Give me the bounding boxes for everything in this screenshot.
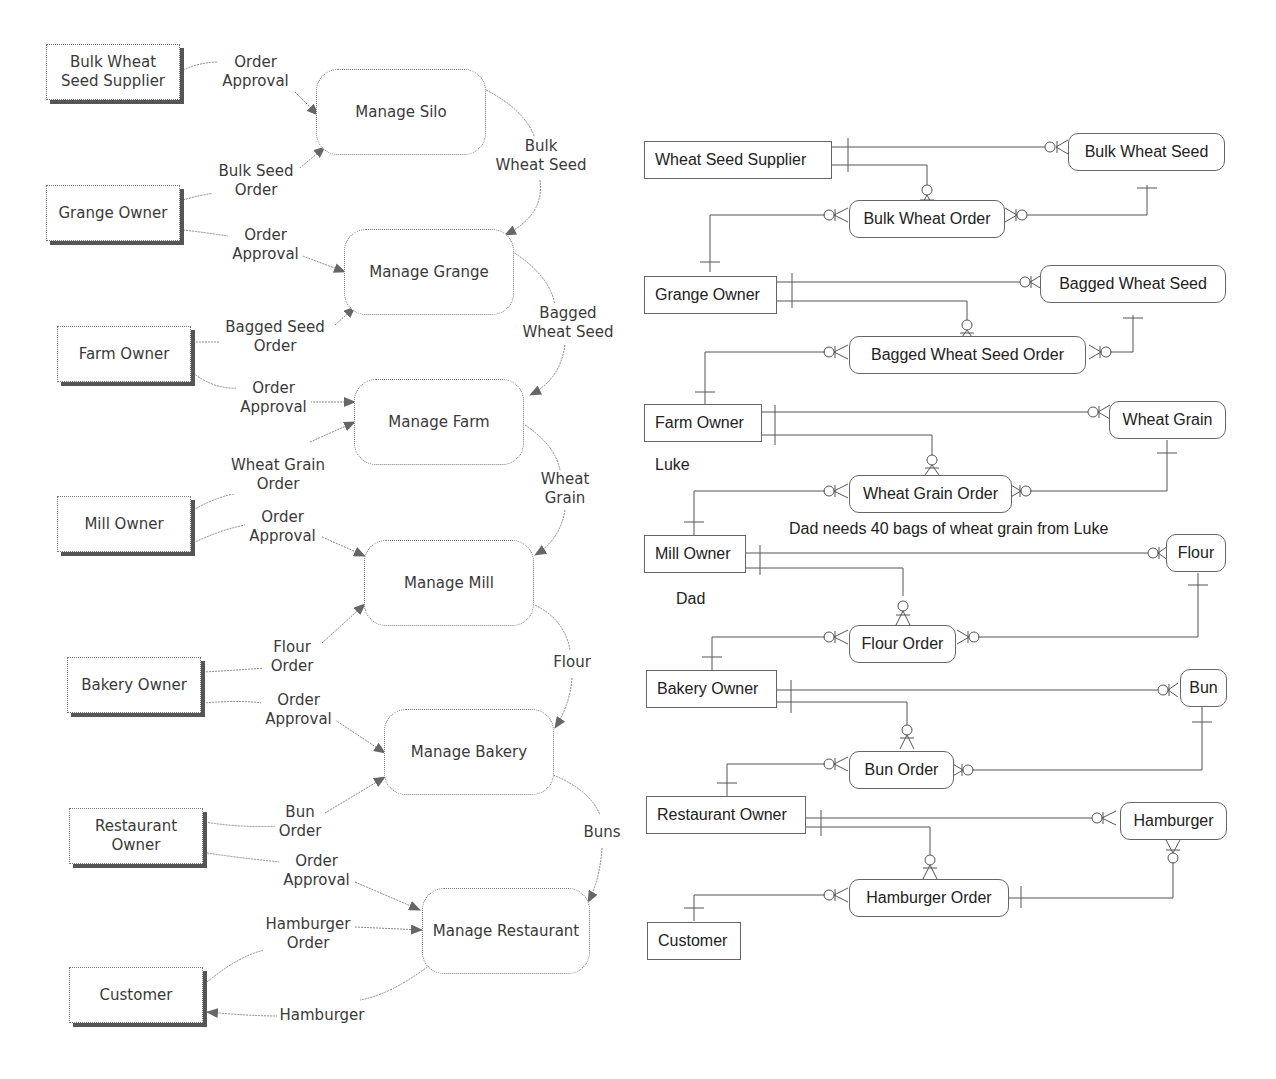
external-bulk-wheat-seed-supplier[interactable]: Bulk Wheat Seed Supplier: [46, 44, 180, 100]
flow-label: Flour Order: [262, 638, 322, 676]
flow-label: Bagged Wheat Seed: [519, 304, 617, 342]
flow-label: Buns: [580, 823, 624, 842]
entity-bagged-wheat-seed[interactable]: Bagged Wheat Seed: [1040, 265, 1226, 303]
process-manage-restaurant[interactable]: Manage Restaurant: [422, 888, 590, 974]
external-restaurant-owner[interactable]: Restaurant Owner: [69, 808, 203, 864]
entity-bun[interactable]: Bun: [1180, 669, 1227, 707]
flow-label: Order Approval: [218, 53, 293, 91]
flow-label: Bagged Seed Order: [222, 318, 328, 356]
flow-label: Wheat Grain Order: [226, 456, 330, 494]
entity-hamburger[interactable]: Hamburger: [1120, 802, 1227, 840]
flow-label: Bun Order: [275, 803, 325, 841]
note-luke: Luke: [655, 456, 690, 474]
entity-mill-owner[interactable]: Mill Owner: [644, 535, 746, 573]
entity-bulk-wheat-order[interactable]: Bulk Wheat Order: [849, 200, 1005, 238]
flow-label: Hamburger Order: [263, 915, 353, 953]
flow-label: Order Approval: [261, 691, 336, 729]
process-manage-bakery[interactable]: Manage Bakery: [384, 709, 554, 795]
entity-flour[interactable]: Flour: [1166, 534, 1226, 572]
external-farm-owner[interactable]: Farm Owner: [57, 326, 191, 382]
flow-label: Hamburger: [277, 1006, 367, 1025]
entity-wheat-seed-supplier[interactable]: Wheat Seed Supplier: [644, 141, 832, 179]
external-customer[interactable]: Customer: [69, 967, 203, 1023]
flow-label: Bulk Seed Order: [212, 162, 300, 200]
flow-label: Wheat Grain: [535, 470, 595, 508]
process-manage-mill[interactable]: Manage Mill: [364, 540, 534, 626]
process-manage-grange[interactable]: Manage Grange: [344, 229, 514, 315]
external-grange-owner[interactable]: Grange Owner: [46, 185, 180, 241]
entity-bakery-owner[interactable]: Bakery Owner: [646, 670, 777, 708]
entity-customer[interactable]: Customer: [647, 922, 741, 960]
entity-wheat-grain[interactable]: Wheat Grain: [1109, 401, 1226, 439]
flow-label: Order Approval: [279, 852, 354, 890]
external-bakery-owner[interactable]: Bakery Owner: [67, 657, 201, 713]
flow-label: Order Approval: [228, 226, 303, 264]
process-manage-farm[interactable]: Manage Farm: [354, 379, 524, 465]
entity-bulk-wheat-seed[interactable]: Bulk Wheat Seed: [1068, 133, 1225, 171]
note-requirement: Dad needs 40 bags of wheat grain from Lu…: [789, 520, 1108, 538]
entity-bun-order[interactable]: Bun Order: [849, 751, 954, 789]
process-manage-silo[interactable]: Manage Silo: [316, 69, 486, 155]
flow-label: Flour: [548, 653, 596, 672]
note-dad: Dad: [676, 590, 705, 608]
flow-label: Order Approval: [236, 379, 311, 417]
entity-hamburger-order[interactable]: Hamburger Order: [849, 879, 1009, 917]
entity-wheat-grain-order[interactable]: Wheat Grain Order: [849, 475, 1012, 513]
entity-bagged-wheat-seed-order[interactable]: Bagged Wheat Seed Order: [849, 336, 1086, 374]
entity-farm-owner[interactable]: Farm Owner: [644, 404, 762, 442]
external-mill-owner[interactable]: Mill Owner: [57, 496, 191, 552]
entity-flour-order[interactable]: Flour Order: [849, 625, 956, 663]
flow-label: Order Approval: [245, 508, 320, 546]
flow-label: Bulk Wheat Seed: [492, 137, 590, 175]
entity-restaurant-owner[interactable]: Restaurant Owner: [646, 796, 806, 834]
entity-grange-owner[interactable]: Grange Owner: [644, 276, 777, 314]
